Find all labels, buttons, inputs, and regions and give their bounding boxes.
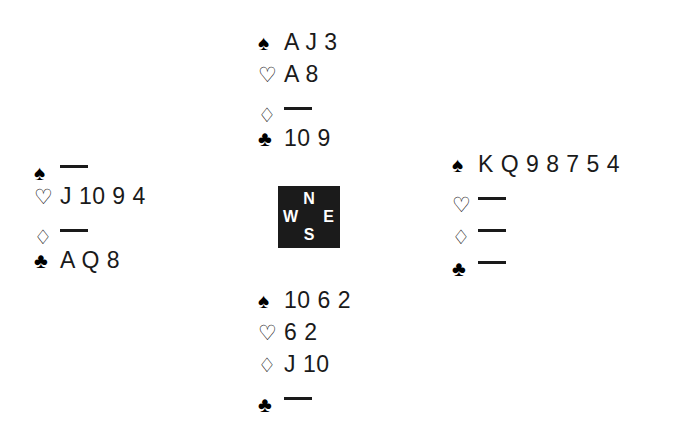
hand-west-diamonds-void bbox=[60, 212, 90, 244]
spade-icon: ♠ bbox=[452, 149, 478, 181]
compass-south-label: S bbox=[278, 227, 340, 243]
hand-east-diamonds-row: ♢ bbox=[452, 212, 620, 244]
hand-east-spades-cards: K Q 9 8 7 5 4 bbox=[478, 148, 620, 180]
hand-west-clubs-cards: A Q 8 bbox=[60, 244, 120, 276]
heart-icon: ♡ bbox=[34, 181, 60, 213]
hand-south-spades-row: ♠ 10 6 2 bbox=[258, 284, 351, 316]
hand-north-clubs-cards: 10 9 bbox=[284, 122, 331, 154]
club-icon: ♣ bbox=[34, 245, 60, 277]
heart-icon: ♡ bbox=[258, 59, 284, 91]
spade-icon: ♠ bbox=[258, 285, 284, 317]
compass-west-label: W bbox=[283, 209, 298, 225]
hand-west-spades-row: ♠ bbox=[34, 148, 146, 180]
hand-north-diamonds-void bbox=[284, 90, 314, 122]
hand-south-hearts-cards: 6 2 bbox=[284, 316, 317, 348]
hand-south-clubs-void bbox=[284, 380, 314, 412]
diamond-icon: ♢ bbox=[258, 349, 284, 381]
hand-south-clubs-row: ♣ bbox=[258, 380, 351, 412]
heart-icon: ♡ bbox=[258, 317, 284, 349]
club-icon: ♣ bbox=[258, 123, 284, 155]
club-icon: ♣ bbox=[258, 389, 284, 421]
hand-south-hearts-row: ♡ 6 2 bbox=[258, 316, 351, 348]
diamond-icon: ♢ bbox=[452, 221, 478, 253]
hand-east-hearts-void bbox=[478, 180, 508, 212]
compass-east-label: E bbox=[323, 209, 334, 225]
hand-north-hearts-row: ♡ A 8 bbox=[258, 58, 338, 90]
hand-east-diamonds-void bbox=[478, 212, 508, 244]
heart-icon: ♡ bbox=[452, 189, 478, 221]
hand-north-spades-row: ♠ A J 3 bbox=[258, 26, 338, 58]
hand-east-clubs-void bbox=[478, 244, 508, 276]
bridge-hand-diagram: ♠ A J 3 ♡ A 8 ♢ ♣ 10 9 ♠ ♡ J 10 9 4 ♢ bbox=[0, 0, 677, 424]
hand-west: ♠ ♡ J 10 9 4 ♢ ♣ A Q 8 bbox=[34, 148, 146, 276]
spade-icon: ♠ bbox=[258, 27, 284, 59]
hand-north-hearts-cards: A 8 bbox=[284, 58, 319, 90]
hand-west-spades-void bbox=[60, 148, 90, 180]
hand-west-diamonds-row: ♢ bbox=[34, 212, 146, 244]
compass-north-label: N bbox=[278, 191, 340, 207]
hand-north: ♠ A J 3 ♡ A 8 ♢ ♣ 10 9 bbox=[258, 26, 338, 154]
hand-south-spades-cards: 10 6 2 bbox=[284, 284, 351, 316]
hand-north-diamonds-row: ♢ bbox=[258, 90, 338, 122]
hand-east-clubs-row: ♣ bbox=[452, 244, 620, 276]
hand-south-diamonds-cards: J 10 bbox=[284, 348, 329, 380]
hand-west-hearts-row: ♡ J 10 9 4 bbox=[34, 180, 146, 212]
hand-west-hearts-cards: J 10 9 4 bbox=[60, 180, 146, 212]
hand-west-clubs-row: ♣ A Q 8 bbox=[34, 244, 146, 276]
hand-east-spades-row: ♠ K Q 9 8 7 5 4 bbox=[452, 148, 620, 180]
hand-south-diamonds-row: ♢ J 10 bbox=[258, 348, 351, 380]
hand-north-spades-cards: A J 3 bbox=[284, 26, 338, 58]
club-icon: ♣ bbox=[452, 253, 478, 285]
hand-east: ♠ K Q 9 8 7 5 4 ♡ ♢ ♣ bbox=[452, 148, 620, 276]
hand-north-clubs-row: ♣ 10 9 bbox=[258, 122, 338, 154]
hand-south: ♠ 10 6 2 ♡ 6 2 ♢ J 10 ♣ bbox=[258, 284, 351, 412]
compass-box: N W E S bbox=[278, 186, 340, 248]
hand-east-hearts-row: ♡ bbox=[452, 180, 620, 212]
